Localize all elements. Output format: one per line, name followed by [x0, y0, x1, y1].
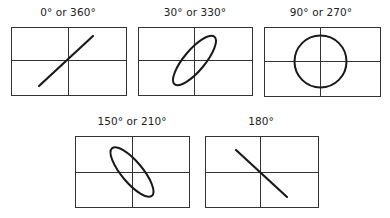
scope-panel-150	[76, 137, 190, 208]
diagram: 0° or 360° 30° or 330° 90° or 270° 150° …	[0, 0, 390, 218]
scope-displays	[0, 0, 390, 218]
scope-panel-180	[206, 137, 319, 208]
scope-panel-30	[139, 28, 253, 96]
scope-panel-0	[12, 28, 127, 96]
scope-panel-90	[265, 28, 381, 97]
trace-line-negative	[236, 150, 287, 197]
